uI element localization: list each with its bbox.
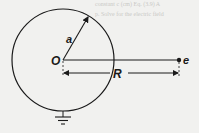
distance-label: R bbox=[113, 67, 122, 81]
radius-label: a bbox=[66, 33, 72, 45]
diagram-canvas: constant c (cm) Eq. (3.9) A p. Solve for… bbox=[0, 0, 199, 133]
charge-label: e bbox=[183, 54, 189, 66]
sphere-charge-figure: a O R e bbox=[0, 0, 199, 133]
point-charge-dot bbox=[177, 58, 181, 62]
center-label: O bbox=[51, 54, 61, 68]
